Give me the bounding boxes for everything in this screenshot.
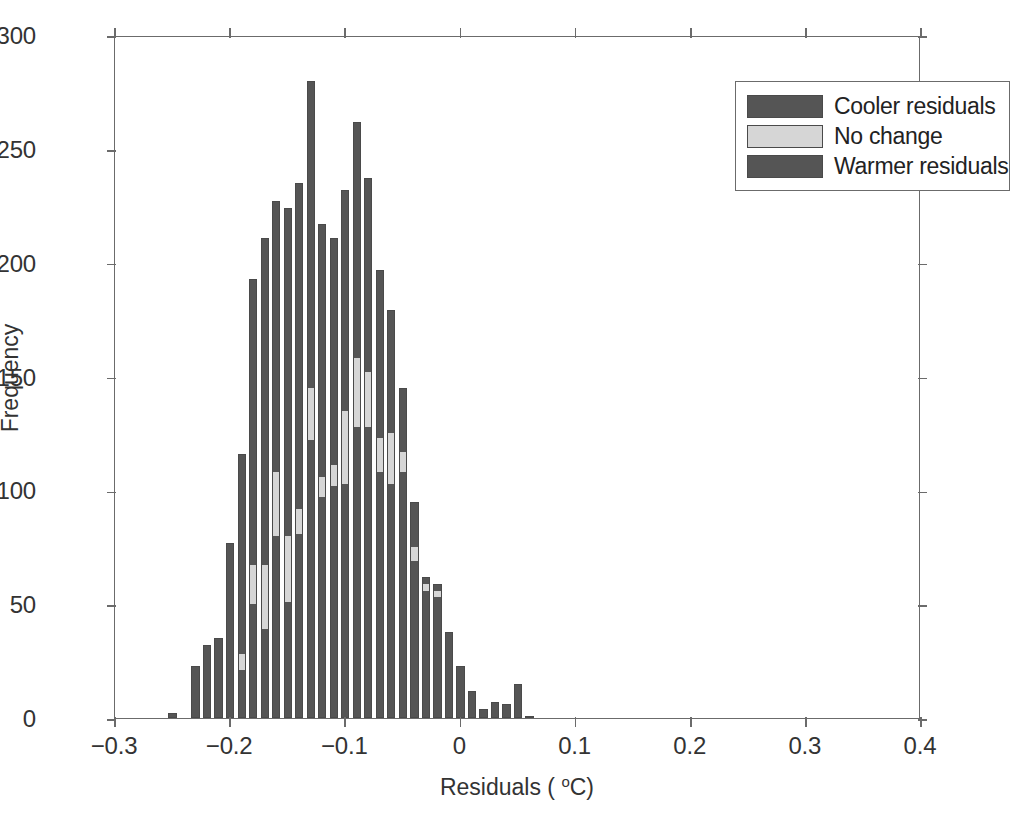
histogram-bar — [341, 190, 349, 718]
histogram-bar — [272, 201, 280, 718]
histogram-bar — [468, 691, 476, 718]
bar-segment-warmer — [307, 440, 315, 718]
bar-segment-warmer — [422, 591, 430, 718]
bar-segment-nochange — [410, 547, 418, 561]
y-axis-tick — [918, 378, 927, 380]
x-axis-tick — [805, 717, 807, 727]
x-axis-tick — [920, 28, 922, 38]
bar-segment-cooler — [422, 577, 430, 584]
bar-segment-warmer — [364, 427, 372, 718]
y-axis-tick — [918, 264, 927, 266]
bar-segment-warmer — [387, 484, 395, 718]
y-tick-label: 100 — [0, 477, 36, 505]
legend-label-nochange: No change — [834, 123, 943, 150]
bar-segment-warmer — [226, 702, 234, 718]
bar-segment-nochange — [387, 433, 395, 483]
bar-segment-warmer — [295, 534, 303, 718]
histogram-bar — [399, 388, 407, 718]
bar-segment-warmer — [318, 497, 326, 718]
histogram-bar — [168, 713, 176, 718]
bar-segment-nochange — [318, 477, 326, 497]
histogram-bar — [261, 238, 269, 718]
legend-label-cooler: Cooler residuals — [834, 93, 995, 120]
legend-item: Warmer residuals — [747, 151, 998, 181]
bar-segment-nochange — [330, 465, 338, 485]
histogram-bar — [191, 666, 199, 718]
bar-segment-nochange — [422, 584, 430, 591]
bar-segment-warmer — [399, 472, 407, 718]
bar-segment-cooler — [238, 454, 246, 654]
bar-segment-nochange — [249, 565, 257, 604]
bar-segment-cooler — [330, 238, 338, 466]
bar-segment-cooler — [353, 122, 361, 359]
histogram-bar — [330, 238, 338, 718]
x-axis-tick — [114, 28, 116, 38]
bar-segment-cooler — [295, 183, 303, 509]
histogram-bar — [203, 645, 211, 718]
bar-segment-warmer — [468, 691, 476, 718]
x-tick-label: 0.4 — [904, 732, 937, 760]
legend-swatch-cooler — [747, 95, 823, 118]
bar-segment-warmer — [479, 709, 487, 718]
x-tick-label: −0.2 — [206, 732, 253, 760]
y-axis-tick — [107, 605, 116, 607]
bar-segment-warmer — [433, 597, 441, 718]
legend-label-warmer: Warmer residuals — [834, 153, 1009, 180]
histogram-bar — [318, 224, 326, 718]
bar-segment-nochange — [433, 591, 441, 598]
plot-area: Cooler residuals No change Warmer residu… — [114, 36, 920, 719]
bar-segment-warmer — [261, 629, 269, 718]
histogram-bar — [284, 208, 292, 718]
bar-segment-nochange — [272, 472, 280, 536]
x-axis-tick — [690, 717, 692, 727]
x-axis-tick — [460, 28, 462, 38]
bar-segment-cooler — [284, 208, 292, 536]
bar-segment-warmer — [168, 713, 176, 718]
histogram-bar — [410, 502, 418, 718]
x-axis-tick — [344, 28, 346, 38]
histogram-bar — [514, 684, 522, 718]
y-axis-tick — [107, 150, 116, 152]
bar-segment-nochange — [307, 388, 315, 440]
bar-segment-warmer — [341, 484, 349, 718]
histogram-bar — [491, 702, 499, 718]
histogram-bar — [307, 81, 315, 718]
bar-segment-nochange — [341, 411, 349, 484]
x-tick-label: 0.2 — [673, 732, 706, 760]
bar-segment-warmer — [191, 666, 199, 718]
legend: Cooler residuals No change Warmer residu… — [735, 81, 1010, 191]
bar-segment-nochange — [399, 452, 407, 472]
bar-segment-cooler — [410, 502, 418, 548]
bar-segment-nochange — [261, 565, 269, 629]
bar-segment-nochange — [364, 372, 372, 427]
bar-segment-warmer — [376, 472, 384, 718]
histogram-bar — [226, 543, 234, 718]
bar-segment-nochange — [376, 438, 384, 472]
bar-segment-warmer — [456, 666, 464, 718]
y-tick-label: 250 — [0, 136, 36, 164]
bar-segment-cooler — [376, 270, 384, 438]
x-tick-label: 0.1 — [558, 732, 591, 760]
bar-segment-warmer — [203, 645, 211, 718]
histogram-bar — [376, 270, 384, 719]
bar-segment-cooler — [399, 388, 407, 452]
bar-segment-nochange — [353, 358, 361, 426]
histogram-bar — [295, 183, 303, 718]
x-axis-tick — [805, 28, 807, 38]
y-axis-tick — [918, 605, 927, 607]
bar-segment-warmer — [238, 670, 246, 718]
histogram-bar — [433, 584, 441, 718]
bar-segment-cooler — [433, 584, 441, 591]
y-tick-label: 200 — [0, 250, 36, 278]
bar-segment-cooler — [387, 310, 395, 433]
y-axis-tick — [107, 378, 116, 380]
x-tick-label: 0.3 — [788, 732, 821, 760]
bar-segment-cooler — [261, 238, 269, 566]
y-axis-tick — [107, 492, 116, 494]
histogram-bar — [502, 704, 510, 718]
x-axis-unit-text: C) — [570, 774, 594, 800]
x-axis-tick — [690, 28, 692, 38]
x-axis-tick — [575, 28, 577, 38]
bar-segment-cooler — [272, 201, 280, 472]
y-tick-label: 50 — [10, 591, 36, 619]
